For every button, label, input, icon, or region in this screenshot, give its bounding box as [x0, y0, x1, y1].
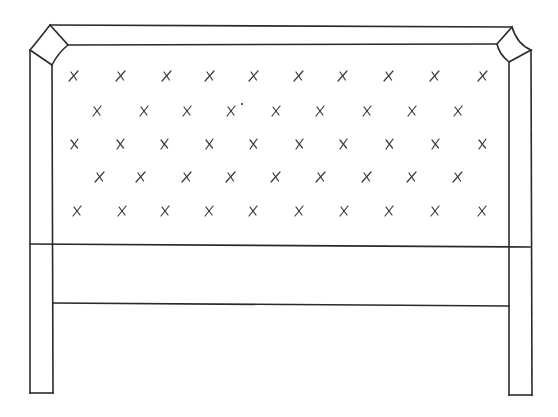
tuft-button-mark [69, 71, 78, 81]
top-rail-outer-edge [50, 25, 512, 27]
tuft-button-mark [294, 71, 303, 81]
tuft-button-mark [338, 71, 347, 81]
tuft-button-mark [95, 172, 104, 182]
tuft-button-mark [296, 139, 303, 149]
tuft-button-mark [116, 71, 125, 81]
tuft-button-mark [453, 172, 462, 182]
tuft-button-mark [479, 139, 486, 149]
tuft-button-mark [340, 139, 347, 149]
tuft-button-mark [340, 206, 348, 216]
tuft-button-mark [250, 139, 257, 149]
tuft-button-mark [161, 206, 169, 216]
tuft-button-mark [226, 172, 235, 182]
tuft-button-mark [93, 106, 101, 116]
tuft-button-mark [295, 206, 303, 216]
tuft-button-mark [161, 139, 168, 149]
right-corner-ornament [497, 27, 531, 62]
tuft-button-mark [136, 172, 145, 182]
tuft-button-mark [362, 172, 371, 182]
tuft-button-mark [363, 106, 371, 116]
tuft-button-mark [73, 206, 81, 216]
tuft-button-mark [140, 106, 148, 116]
tuft-button-mark [162, 71, 171, 81]
left-corner-ornament [30, 25, 68, 65]
tuft-button-mark [205, 206, 213, 216]
tuft-button-mark [249, 71, 258, 81]
tuft-button-mark [385, 206, 393, 216]
tuft-button-mark [478, 71, 487, 81]
tuft-button-mark [431, 206, 439, 216]
tuft-button-mark [182, 172, 191, 182]
tuft-button-mark [384, 71, 393, 81]
tuft-button-mark [272, 106, 280, 116]
headboard-svg [0, 0, 558, 417]
tuft-button-mark [430, 71, 439, 81]
tuft-button-mark [117, 139, 124, 149]
tuft-button-mark [205, 71, 214, 81]
tuft-button-mark [432, 139, 439, 149]
tuft-button-mark [206, 139, 213, 149]
tuft-button-mark [316, 172, 325, 182]
headboard-drawing [0, 0, 558, 417]
right-post-outer-edge [531, 50, 532, 395]
tuft-button-mark [386, 139, 393, 149]
tuft-button-mark [227, 106, 235, 116]
tuft-button-mark [71, 139, 78, 149]
tuft-button-mark [183, 106, 191, 116]
tuft-button-mark [478, 206, 486, 216]
stray-dot [241, 103, 243, 105]
panel-bottom-edge [30, 244, 530, 247]
tuft-button-mark [408, 106, 416, 116]
tuft-button-mark [271, 172, 280, 182]
tufting-buttons [69, 71, 487, 216]
tuft-button-mark [249, 206, 257, 216]
tuft-button-mark [407, 172, 416, 182]
tuft-button-mark [454, 106, 462, 116]
headboard-frame [30, 25, 532, 395]
tuft-button-mark [316, 106, 324, 116]
lower-rail-edge [53, 303, 509, 306]
left-post-inner-edge [52, 65, 53, 393]
top-rail-inner-edge [68, 44, 497, 45]
tuft-button-mark [118, 206, 126, 216]
